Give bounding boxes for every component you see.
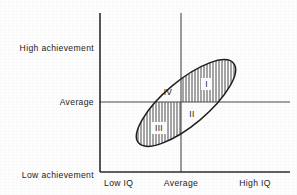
x-label-high-iq: High IQ xyxy=(239,178,271,188)
y-label-average: Average xyxy=(60,97,94,107)
x-label-average: Average xyxy=(164,178,198,188)
iq-achievement-scatter-diagram: I II III IV High achievement Average Low… xyxy=(0,0,297,195)
quadrant-3-label: III xyxy=(155,123,163,133)
quadrant-4-label: IV xyxy=(164,87,173,97)
x-label-low-iq: Low IQ xyxy=(104,178,133,188)
y-label-high-achievement: High achievement xyxy=(20,43,95,53)
quadrant-3-hatching xyxy=(132,0,180,195)
diagram-canvas: I II III IV High achievement Average Low… xyxy=(0,0,297,195)
quadrant-1-hatching xyxy=(183,0,234,195)
quadrant-1-label: I xyxy=(205,79,208,89)
quadrant-2-label: II xyxy=(189,109,194,119)
y-label-low-achievement: Low achievement xyxy=(22,170,94,180)
correlation-ellipse xyxy=(124,46,247,159)
